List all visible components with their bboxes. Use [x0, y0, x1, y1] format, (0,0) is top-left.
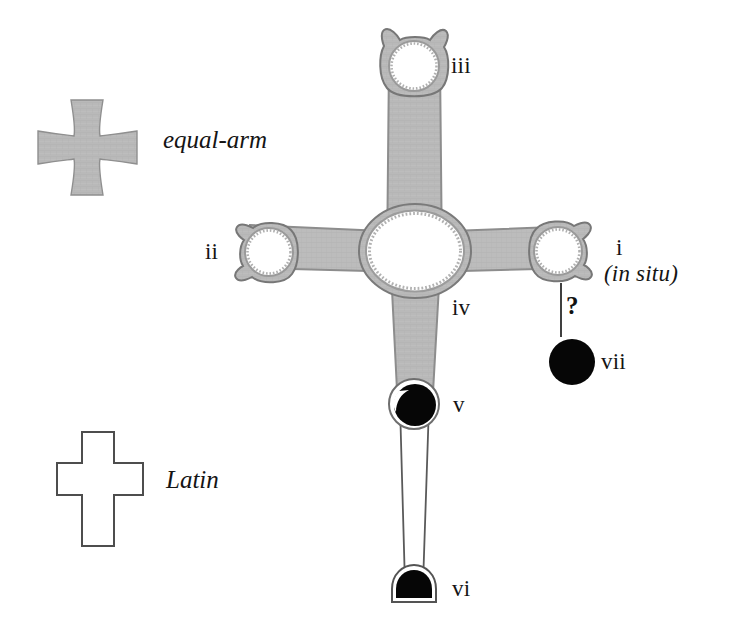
legend-label-latin: Latin [166, 466, 219, 494]
terminal-i [529, 221, 592, 281]
terminal-iii [380, 29, 448, 96]
part-label-ii: ii [205, 240, 218, 265]
part-label-vi: vi [452, 577, 470, 602]
part-label-iii: iii [451, 54, 471, 79]
disc-v [389, 379, 439, 429]
lower-shaft-outline [400, 405, 429, 585]
terminal-ii [235, 223, 298, 282]
cross-diagram-svg [0, 0, 733, 625]
legend-equal-arm-icon [38, 100, 137, 195]
part-label-iv: iv [452, 296, 470, 321]
legend-latin-cross-icon [57, 432, 143, 546]
part-label-vii: vii [601, 350, 626, 375]
uncertainty-question-mark: ? [566, 292, 579, 320]
figure-canvas: equal-arm Latin iii ii i (in situ) iv ? … [0, 0, 733, 625]
central-boss-iv [359, 204, 471, 298]
part-label-i-note: (in situ) [604, 262, 678, 287]
part-label-v: v [453, 393, 465, 418]
disc-vii [549, 339, 595, 385]
foot-vi [392, 565, 436, 602]
legend-label-equal-arm: equal-arm [163, 126, 267, 154]
part-label-i: i [616, 236, 623, 261]
